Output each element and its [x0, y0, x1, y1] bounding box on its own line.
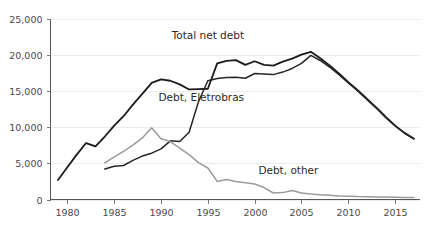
- x-tick-label-0: 1980: [55, 207, 79, 218]
- x-axis-tick-labels: 19801985199019952000200520102015: [55, 207, 407, 218]
- y-tick-label-3: 15,000: [9, 86, 42, 97]
- y-tick-label-1: 5,000: [15, 158, 42, 169]
- debt-other-label: Debt, other: [258, 164, 319, 176]
- series-line-total-net-debt: [58, 52, 414, 180]
- series-line-debt-other: [105, 128, 414, 198]
- x-tick-label-4: 2000: [243, 207, 267, 218]
- x-tick-label-7: 2015: [383, 207, 407, 218]
- series-annotations: Total net debtDebt, EletrobrasDebt, othe…: [159, 29, 320, 176]
- y-tick-label-4: 20,000: [9, 50, 42, 61]
- series-line-debt-eletrobras: [105, 55, 414, 169]
- y-tick-label-2: 10,000: [9, 122, 42, 133]
- data-series: [58, 52, 414, 198]
- total-net-debt-label: Total net debt: [171, 29, 244, 41]
- y-axis-ticks: [47, 20, 51, 201]
- y-tick-label-5: 25,000: [9, 14, 42, 25]
- x-tick-label-2: 1990: [149, 207, 173, 218]
- x-tick-label-1: 1985: [102, 207, 126, 218]
- x-tick-label-5: 2005: [289, 207, 313, 218]
- gridlines: [51, 20, 420, 201]
- line-chart: 05,00010,00015,00020,00025,000 198019851…: [0, 0, 429, 238]
- axis-spines: [51, 19, 420, 200]
- debt-eletrobras-label: Debt, Eletrobras: [159, 91, 245, 103]
- x-tick-label-3: 1995: [196, 207, 220, 218]
- chart-container: 05,00010,00015,00020,00025,000 198019851…: [0, 0, 429, 238]
- y-tick-label-0: 0: [36, 195, 42, 206]
- x-tick-label-6: 2010: [336, 207, 360, 218]
- y-axis-tick-labels: 05,00010,00015,00020,00025,000: [9, 14, 42, 206]
